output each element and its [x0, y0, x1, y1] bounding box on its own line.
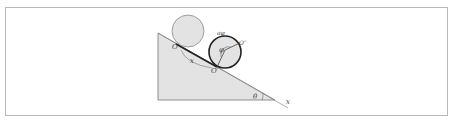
incline-diagram: O O′ O″ x φ aφ θ x — [0, 0, 456, 122]
label-rim-point: O″ — [239, 39, 247, 46]
label-contact-point: O′ — [211, 67, 219, 75]
label-rotation-angle: φ — [219, 46, 224, 54]
rolled-disk — [209, 36, 241, 68]
label-axis: x — [286, 98, 290, 106]
label-origin: O — [172, 43, 178, 51]
label-arc-length: aφ — [217, 29, 226, 37]
label-displacement: x — [190, 57, 194, 65]
